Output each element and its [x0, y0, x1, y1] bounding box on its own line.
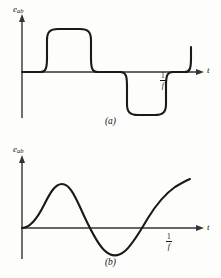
x-axis-b [22, 225, 204, 231]
y-axis-b [19, 155, 25, 259]
waveform-curve-b [22, 179, 190, 255]
period-denominator-a: f [160, 82, 166, 90]
caption-a: (a) [0, 116, 221, 126]
y-axis-label-b: eab [13, 145, 24, 155]
y-axis-subscript-b: ab [17, 147, 24, 154]
caption-b: (b) [0, 257, 221, 267]
y-axis-label-a: eab [13, 5, 24, 15]
period-numerator-b: 1 [166, 233, 172, 241]
figure-panel-b: eab t 1 f (b) [0, 139, 221, 278]
period-denominator-b: f [166, 243, 172, 251]
figure-panel-a: eab t 1 f (a) [0, 0, 221, 139]
y-axis-a [19, 14, 25, 118]
y-axis-subscript-a: ab [17, 7, 24, 14]
period-numerator-a: 1 [160, 72, 166, 80]
x-axis-label-a: t [207, 66, 210, 75]
figure-page: eab t 1 f (a) eab t 1 [0, 0, 221, 278]
period-marker-a: 1 f [160, 72, 166, 90]
x-axis-label-b: t [207, 223, 210, 232]
period-marker-b: 1 f [166, 233, 172, 251]
